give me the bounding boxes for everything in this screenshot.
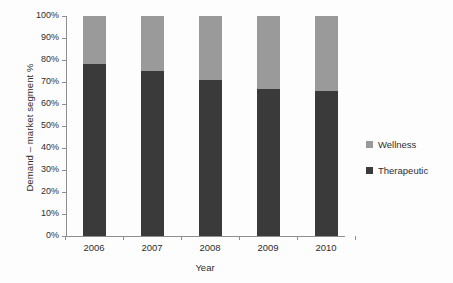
- y-axis-tick-label: 40%: [41, 142, 59, 152]
- legend-label: Therapeutic: [378, 165, 428, 176]
- legend-label: Wellness: [378, 139, 416, 150]
- chart-figure: Demand – market segment % 0%10%20%30%40%…: [0, 0, 453, 283]
- x-axis-line: [66, 236, 345, 237]
- bar-segment-therapeutic[interactable]: [83, 64, 106, 236]
- bar-segment-therapeutic[interactable]: [315, 91, 338, 236]
- plot-area: 0%10%20%30%40%50%60%70%80%90%100%2006200…: [66, 16, 344, 236]
- y-axis-tick: 40%: [62, 148, 66, 149]
- y-axis-tick: 30%: [62, 170, 66, 171]
- y-axis-tick-label: 10%: [41, 208, 59, 218]
- y-axis-tick: 70%: [62, 82, 66, 83]
- x-axis-category-label: 2007: [122, 242, 182, 253]
- legend-item[interactable]: Therapeutic: [366, 164, 452, 176]
- bar-segment-wellness[interactable]: [315, 16, 338, 91]
- bar-group[interactable]: [315, 16, 338, 236]
- bar-segment-therapeutic[interactable]: [257, 89, 280, 236]
- legend-item[interactable]: Wellness: [366, 138, 452, 150]
- bar-group[interactable]: [141, 16, 164, 236]
- y-axis-tick: 90%: [62, 38, 66, 39]
- y-axis-tick-label: 60%: [41, 98, 59, 108]
- y-axis-tick: 10%: [62, 214, 66, 215]
- x-axis-category-label: 2008: [180, 242, 240, 253]
- x-axis-tick: [355, 236, 356, 240]
- y-axis-tick-label: 50%: [41, 120, 59, 130]
- bar-segment-wellness[interactable]: [257, 16, 280, 89]
- bar-group[interactable]: [83, 16, 106, 236]
- y-axis-tick: 60%: [62, 104, 66, 105]
- x-axis-tick: [65, 236, 66, 240]
- bar-group[interactable]: [257, 16, 280, 236]
- bar-segment-therapeutic[interactable]: [199, 80, 222, 236]
- bar-segment-wellness[interactable]: [141, 16, 164, 71]
- y-axis-tick: 80%: [62, 60, 66, 61]
- y-axis-tick-label: 90%: [41, 32, 59, 42]
- y-axis-tick-label: 80%: [41, 54, 59, 64]
- y-axis-line: [66, 16, 67, 237]
- x-axis-category-label: 2006: [64, 242, 124, 253]
- y-axis-tick-label: 70%: [41, 76, 59, 86]
- y-axis-tick-label: 0%: [46, 230, 59, 240]
- x-axis-title: Year: [66, 262, 344, 273]
- y-axis-tick-label: 100%: [36, 10, 59, 20]
- y-axis-tick-label: 20%: [41, 186, 59, 196]
- x-axis-category-label: 2010: [296, 242, 356, 253]
- y-axis-tick-label: 30%: [41, 164, 59, 174]
- x-axis-tick: [297, 236, 298, 240]
- bar-group[interactable]: [199, 16, 222, 236]
- legend-swatch-icon: [366, 167, 373, 174]
- chart-legend: WellnessTherapeutic: [366, 138, 452, 190]
- x-axis-tick: [181, 236, 182, 240]
- bar-segment-wellness[interactable]: [83, 16, 106, 64]
- y-axis-tick: 20%: [62, 192, 66, 193]
- y-axis-tick: 50%: [62, 126, 66, 127]
- legend-swatch-icon: [366, 141, 373, 148]
- x-axis-tick: [239, 236, 240, 240]
- y-axis-tick: 100%: [62, 16, 66, 17]
- x-axis-category-label: 2009: [238, 242, 298, 253]
- bar-segment-therapeutic[interactable]: [141, 71, 164, 236]
- bar-segment-wellness[interactable]: [199, 16, 222, 80]
- y-axis-title: Demand – market segment %: [24, 38, 35, 218]
- x-axis-tick: [123, 236, 124, 240]
